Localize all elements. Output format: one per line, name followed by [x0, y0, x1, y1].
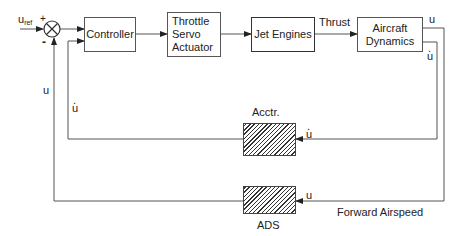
- udot-controller-label: u: [72, 102, 78, 114]
- jet-engines-block: Jet Engines: [251, 17, 315, 52]
- u-output-label: u: [429, 13, 435, 25]
- thrust-label: Thrust: [319, 16, 350, 28]
- aircraft-label-line2: Dynamics: [366, 35, 414, 48]
- udot-acctr-label: u: [306, 128, 312, 140]
- throttle-label-line3: Actuator: [172, 41, 213, 54]
- ads-block: [243, 186, 296, 214]
- u-ads-label: u: [306, 189, 312, 201]
- ads-label: ADS: [257, 219, 280, 231]
- udot-output-label: u: [427, 50, 433, 62]
- throttle-servo-actuator-block: Throttle Servo Actuator: [167, 12, 221, 57]
- forward-airspeed-label: Forward Airspeed: [337, 206, 423, 218]
- u-sum-label: u: [43, 84, 49, 96]
- input-label-uref: uref: [18, 13, 32, 29]
- acctr-block: [243, 123, 296, 156]
- aircraft-dynamics-block: Aircraft Dynamics: [357, 17, 423, 52]
- jet-engines-label: Jet Engines: [254, 28, 311, 41]
- controller-block: Controller: [84, 17, 136, 52]
- controller-label: Controller: [86, 28, 134, 41]
- acctr-label: Acctr.: [252, 106, 280, 118]
- minus-sign: -: [42, 36, 46, 48]
- throttle-label-line1: Throttle: [172, 15, 209, 28]
- summing-junction: [44, 21, 60, 37]
- plus-sign: +: [40, 13, 46, 25]
- throttle-label-line2: Servo: [172, 28, 201, 41]
- aircraft-label-line1: Aircraft: [373, 22, 408, 35]
